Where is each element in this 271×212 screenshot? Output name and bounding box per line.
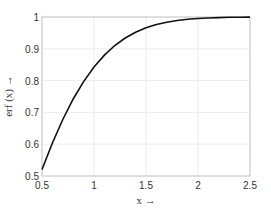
y-tick-label: 0.6 [25, 139, 39, 150]
y-tick-labels: 0.50.60.70.80.91 [25, 12, 39, 182]
y-axis-label: erf (x) → [2, 75, 15, 117]
x-tick-label: 1 [91, 180, 97, 191]
erf-chart: 0.511.522.5 0.50.60.70.80.91 x → erf (x)… [0, 0, 271, 212]
y-tick-label: 0.9 [25, 44, 39, 55]
grid-lines [42, 17, 250, 176]
x-tick-label: 2 [195, 180, 201, 191]
y-tick-label: 1 [33, 12, 39, 23]
x-tick-label: 2.5 [243, 180, 257, 191]
x-tick-labels: 0.511.522.5 [35, 180, 257, 191]
x-tick-label: 1.5 [139, 180, 153, 191]
x-axis-label: x → [136, 194, 155, 206]
y-tick-label: 0.5 [25, 171, 39, 182]
y-tick-label: 0.8 [25, 76, 39, 87]
y-tick-label: 0.7 [25, 107, 39, 118]
